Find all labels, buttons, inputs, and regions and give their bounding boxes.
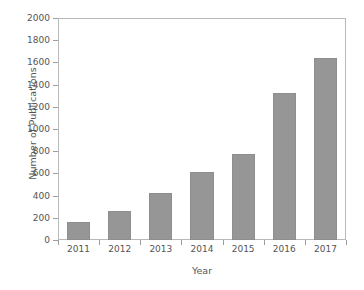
bar [273, 93, 296, 240]
x-tick-mark [223, 240, 224, 245]
y-tick-mark [53, 218, 58, 219]
bar [314, 58, 337, 240]
y-tick-label: 1000 [2, 124, 50, 134]
x-tick-mark [140, 240, 141, 245]
y-tick-mark [53, 196, 58, 197]
x-tick-label: 2017 [299, 244, 351, 254]
y-tick-mark [53, 18, 58, 19]
x-tick-mark [346, 240, 347, 245]
x-tick-mark [99, 240, 100, 245]
bar [149, 193, 172, 240]
x-tick-mark [58, 240, 59, 245]
y-tick-label: 1400 [2, 80, 50, 90]
y-tick-label: 400 [2, 191, 50, 201]
y-tick-label: 1600 [2, 57, 50, 67]
y-tick-label: 1800 [2, 35, 50, 45]
y-tick-label: 2000 [2, 13, 50, 23]
y-tick-mark [53, 62, 58, 63]
bar-chart: Number of Publications 02004006008001000… [0, 0, 364, 290]
bar [190, 172, 213, 240]
bar [67, 222, 90, 240]
y-tick-label: 800 [2, 146, 50, 156]
y-tick-mark [53, 85, 58, 86]
x-axis-title: Year [58, 265, 346, 276]
y-tick-label: 0 [2, 235, 50, 245]
y-tick-mark [53, 107, 58, 108]
y-tick-mark [53, 173, 58, 174]
y-tick-label: 200 [2, 213, 50, 223]
x-tick-mark [305, 240, 306, 245]
x-tick-mark [264, 240, 265, 245]
x-tick-mark [181, 240, 182, 245]
y-tick-mark [53, 40, 58, 41]
y-tick-mark [53, 129, 58, 130]
y-tick-label: 600 [2, 168, 50, 178]
y-tick-label: 1200 [2, 102, 50, 112]
bar [108, 211, 131, 240]
y-tick-mark [53, 151, 58, 152]
bar [232, 154, 255, 240]
